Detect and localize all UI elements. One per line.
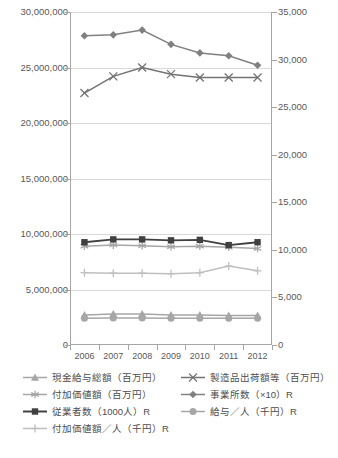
right-axis-tick-label: 20,000: [278, 150, 307, 160]
plot-area: [70, 12, 272, 345]
right-axis-tick-label: 35,000: [278, 7, 307, 17]
right-axis-tick-label: 30,000: [278, 55, 307, 65]
right-axis-tick-mark: [272, 12, 277, 13]
left-axis-tick-label: 15,000,000: [20, 174, 68, 184]
left-axis-tick-label: 20,000,000: [20, 118, 68, 128]
chart-caption: [6, 449, 336, 458]
left-axis-tick-mark: [65, 179, 70, 180]
left-axis-tick-label: 25,000,000: [20, 63, 68, 73]
x-marker-icon: [180, 372, 206, 383]
right-axis-tick-mark: [272, 155, 277, 156]
right-axis-tick-label: 10,000: [278, 245, 307, 255]
legend-row: 従業者数（1000人）R給与／人（千円）R: [0, 406, 338, 423]
legend-item[interactable]: 製造品出荷額等（百万円）: [180, 372, 330, 383]
square-marker-icon: [22, 406, 48, 417]
right-axis-tick-label: 5,000: [278, 292, 302, 302]
left-axis-tick-mark: [65, 290, 70, 291]
left-axis-tick-label: 5,000,000: [26, 285, 68, 295]
circle-marker-icon: [180, 406, 206, 417]
legend-item[interactable]: 現金給与総額（百万円）: [22, 372, 162, 383]
plus-marker-icon: [22, 423, 48, 434]
right-axis-tick-mark: [272, 250, 277, 251]
right-axis-tick-mark: [272, 297, 277, 298]
right-axis-tick-label: 25,000: [278, 102, 307, 112]
right-axis-tick-label: 15,000: [278, 197, 307, 207]
legend-item-label: 付加価値額（百万円）: [52, 389, 152, 400]
chart-container: 05,000,00010,000,00015,000,00020,000,000…: [0, 0, 338, 458]
x-axis-tick-mark: [128, 345, 129, 350]
legend-item-label: 従業者数（1000人）R: [52, 406, 150, 417]
x-axis-tick-label: 2012: [241, 352, 275, 361]
diamond-marker-icon: [180, 389, 206, 400]
x-axis-tick-mark: [185, 345, 186, 350]
x-axis-tick-mark: [243, 345, 244, 350]
x-axis-tick-mark: [70, 345, 71, 350]
left-axis-tick-mark: [65, 12, 70, 13]
legend-item[interactable]: 事業所数（×10）R: [180, 389, 293, 400]
left-axis-tick-mark: [65, 68, 70, 69]
legend-item-label: 製造品出荷額等（百万円）: [210, 372, 330, 383]
legend-item-label: 現金給与総額（百万円）: [52, 372, 162, 383]
legend-item[interactable]: 従業者数（1000人）R: [22, 406, 150, 417]
right-axis-tick-mark: [272, 60, 277, 61]
left-axis-tick-label: 30,000,000: [20, 7, 68, 17]
left-axis-tick-label: 10,000,000: [20, 229, 68, 239]
asterisk-marker-icon: [22, 389, 48, 400]
x-axis-tick-mark: [272, 345, 273, 350]
legend-item[interactable]: 給与／人（千円）R: [180, 406, 297, 417]
triangle-marker-icon: [22, 372, 48, 383]
legend-row: 付加価値額／人（千円）R: [0, 423, 338, 440]
legend-item[interactable]: 付加価値額（百万円）: [22, 389, 152, 400]
left-axis-tick-mark: [65, 123, 70, 124]
left-axis-tick-mark: [65, 234, 70, 235]
right-axis-tick-mark: [272, 107, 277, 108]
right-axis-tick-mark: [272, 202, 277, 203]
legend-row: 付加価値額（百万円）事業所数（×10）R: [0, 389, 338, 406]
legend-item[interactable]: 付加価値額／人（千円）R: [22, 423, 169, 434]
x-axis-tick-mark: [214, 345, 215, 350]
right-axis-tick-label: 0: [278, 340, 283, 350]
legend-row: 現金給与総額（百万円）製造品出荷額等（百万円）: [0, 372, 338, 389]
legend-item-label: 付加価値額／人（千円）R: [52, 423, 169, 434]
legend-item-label: 給与／人（千円）R: [210, 406, 297, 417]
legend-item-label: 事業所数（×10）R: [210, 389, 293, 400]
chart-legend: 現金給与総額（百万円）製造品出荷額等（百万円）付加価値額（百万円）事業所数（×1…: [0, 372, 338, 440]
x-axis-tick-mark: [157, 345, 158, 350]
x-axis-tick-mark: [99, 345, 100, 350]
